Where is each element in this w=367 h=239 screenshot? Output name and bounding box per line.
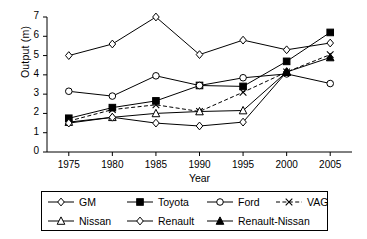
legend-item-gm[interactable]: GM (46, 192, 96, 211)
marker-diamond (153, 13, 160, 21)
legend-item-renault-nissan[interactable]: Renault-Nissan (205, 211, 310, 230)
data-point-open-circle (65, 88, 72, 95)
series-ford (65, 71, 333, 100)
marker-circle (217, 198, 224, 205)
data-point-open-diamond (153, 13, 160, 21)
series-line (287, 58, 331, 73)
legend-item-vag[interactable]: VAG (274, 192, 328, 211)
marker-diamond (109, 40, 116, 48)
data-point-open-diamond (327, 39, 334, 47)
legend-item-renault[interactable]: Renault (125, 211, 194, 230)
data-point-open-diamond (137, 217, 144, 225)
marker-circle (65, 88, 72, 95)
data-point-open-circle (240, 74, 247, 81)
marker-diamond (137, 217, 144, 225)
data-point-open-diamond (58, 198, 65, 206)
legend-item-nissan[interactable]: Nissan (46, 211, 111, 230)
legend-swatch-filled-square-icon (125, 195, 155, 209)
marker-square (327, 29, 334, 36)
marker-diamond (196, 122, 203, 130)
data-point-filled-square (327, 29, 334, 36)
series-line (69, 72, 287, 122)
marker-diamond (283, 46, 290, 54)
legend-label: Renault (158, 215, 194, 227)
marker-diamond (65, 52, 72, 60)
legend-label: Ford (238, 196, 260, 208)
legend-label: Nissan (79, 215, 111, 227)
marker-diamond (240, 36, 247, 44)
data-point-open-circle (217, 198, 224, 205)
chart-legend: GMToyotaFordVAGNissanRenaultRenault-Niss… (41, 191, 328, 231)
data-point-open-circle (327, 80, 334, 87)
data-point-open-diamond (283, 46, 290, 54)
marker-circle (240, 74, 247, 81)
marker-square (283, 58, 290, 65)
marker-square (137, 198, 144, 205)
legend-label: Renault-Nissan (238, 215, 310, 227)
data-point-filled-square (240, 83, 247, 90)
marker-diamond (327, 39, 334, 47)
output-by-year-line-chart: Output (m) Year 012345671975198019851990… (0, 0, 367, 239)
marker-circle (109, 93, 116, 100)
marker-diamond (196, 51, 203, 59)
data-point-open-circle (196, 82, 203, 89)
marker-diamond (153, 119, 160, 127)
data-point-open-diamond (109, 40, 116, 48)
marker-circle (327, 80, 334, 87)
legend-label: VAG (307, 196, 328, 208)
legend-swatch-open-diamond-icon (125, 214, 155, 228)
legend-label: GM (79, 196, 96, 208)
legend-swatch-open-diamond-icon (46, 195, 76, 209)
legend-swatch-cross-x-icon (274, 195, 304, 209)
data-point-open-circle (109, 93, 116, 100)
legend-swatch-open-circle-icon (205, 195, 235, 209)
data-point-open-diamond (196, 122, 203, 130)
data-point-filled-square (137, 198, 144, 205)
marker-circle (153, 73, 160, 80)
legend-swatch-open-triangle-icon (46, 214, 76, 228)
data-point-open-circle (153, 73, 160, 80)
legend-swatch-filled-triangle-icon (205, 214, 235, 228)
data-point-filled-square (283, 58, 290, 65)
marker-diamond (58, 198, 65, 206)
series-gm (65, 13, 333, 59)
legend-label: Toyota (158, 196, 189, 208)
data-point-open-diamond (153, 119, 160, 127)
data-point-open-diamond (240, 36, 247, 44)
data-point-open-diamond (65, 52, 72, 60)
legend-item-toyota[interactable]: Toyota (125, 192, 189, 211)
legend-item-ford[interactable]: Ford (205, 192, 260, 211)
data-point-open-diamond (196, 51, 203, 59)
marker-square (240, 83, 247, 90)
marker-circle (196, 82, 203, 89)
series-line (69, 17, 330, 56)
